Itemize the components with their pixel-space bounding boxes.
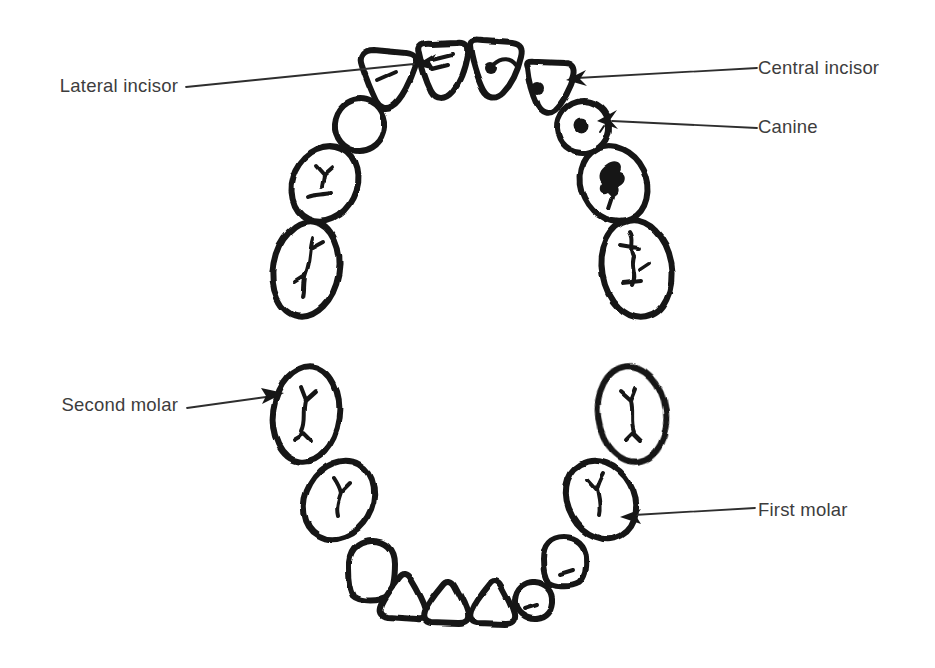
tooth-lower-left-second-molar <box>267 362 346 466</box>
first-molar-leader-line <box>634 508 755 515</box>
tooth-lower-right-lateral-incisor <box>515 582 553 619</box>
tooth-lower-right-canine <box>543 537 586 586</box>
tooth-upper-right-second-molar <box>594 215 680 324</box>
tooth-upper-right-central-incisor <box>470 41 522 98</box>
canine-leader-line <box>612 121 757 128</box>
tooth-upper-left-central-incisor <box>418 43 467 98</box>
central-incisor-leader-line <box>577 68 757 78</box>
label-first-molar: First molar <box>758 499 848 521</box>
dental-arches-diagram: Lateral incisor Central incisor Canine S… <box>0 0 935 668</box>
label-second-molar: Second molar <box>61 394 178 416</box>
tooth-upper-left-second-molar <box>265 216 347 322</box>
teeth-drawing <box>0 0 935 668</box>
second-molar-leader-line <box>187 397 266 408</box>
label-canine: Canine <box>758 116 818 138</box>
label-central-incisor: Central incisor <box>758 57 879 79</box>
tooth-lower-right-second-molar <box>592 362 673 467</box>
label-lateral-incisor: Lateral incisor <box>60 75 178 97</box>
tooth-lower-right-central-incisor <box>470 581 514 624</box>
tooth-lower-left-central-incisor <box>424 581 468 624</box>
